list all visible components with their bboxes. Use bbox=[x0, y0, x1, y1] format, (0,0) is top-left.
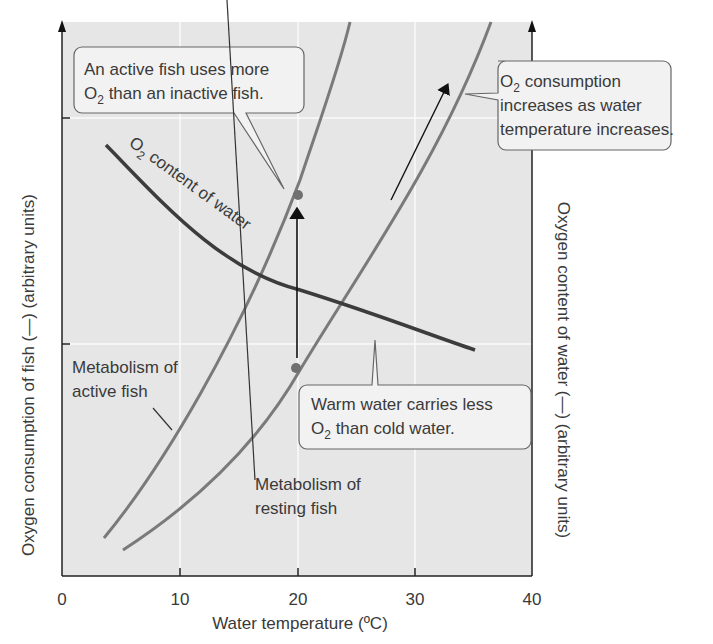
svg-text:temperature increases.: temperature increases. bbox=[500, 120, 674, 139]
resting-fish-label: Metabolism of bbox=[255, 475, 361, 494]
svg-text:10: 10 bbox=[171, 590, 190, 609]
svg-text:increases as water: increases as water bbox=[500, 96, 642, 115]
svg-text:Warm water carries less: Warm water carries less bbox=[311, 395, 493, 414]
svg-text:An active fish uses more: An active fish uses more bbox=[84, 60, 269, 79]
x-axis-title: Water temperature (ºC) bbox=[212, 614, 388, 633]
x-tick-labels: 0 10 20 30 40 bbox=[57, 590, 541, 609]
chart: An active fish uses more O2 than an inac… bbox=[0, 0, 713, 644]
svg-text:20: 20 bbox=[289, 590, 308, 609]
svg-text:40: 40 bbox=[523, 590, 542, 609]
y-axis-right-title: Oxygen content of water (—) (arbitrary u… bbox=[554, 202, 573, 538]
active-point bbox=[293, 190, 303, 200]
svg-text:0: 0 bbox=[57, 590, 66, 609]
active-fish-label: Metabolism of bbox=[72, 358, 178, 377]
resting-point bbox=[291, 363, 301, 373]
resting-fish-label-2: resting fish bbox=[255, 499, 337, 518]
active-fish-label-2: active fish bbox=[72, 382, 148, 401]
y-axis-left-title: Oxygen consumption of fish (—) (arbitrar… bbox=[19, 194, 38, 556]
svg-text:30: 30 bbox=[406, 590, 425, 609]
